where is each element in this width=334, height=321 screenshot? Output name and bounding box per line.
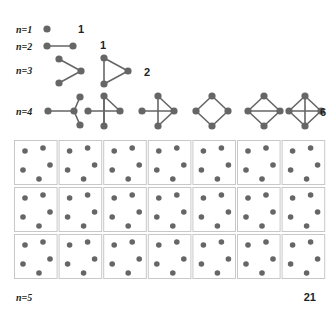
grid-cell-node [315,209,321,215]
grid-cell [148,235,191,279]
graph-node [100,54,107,61]
grid-cell-node [47,256,53,262]
grid-cell-node [22,195,28,201]
grid-cell-node [136,256,142,262]
row-label-n2: n=2 [16,41,32,52]
graph-node [69,42,76,49]
graph-node [301,92,308,99]
grid-cell-node [308,192,314,198]
grid-cell-node [308,239,314,245]
grid-cell-node [85,239,91,245]
grid-cell-node [81,176,87,182]
grid-cell-node [20,167,26,173]
grid-cell-node [22,242,28,248]
n5-grid-layer [15,141,325,279]
grid-cell-node [111,242,117,248]
grid-cell-node [170,270,176,276]
graph-node [100,80,107,87]
grid-cell-node [243,167,249,173]
grid-cell [282,235,325,279]
grid-cell-node [85,145,91,151]
grid-cell-node [219,192,225,198]
grid-cell-node [81,270,87,276]
grid-cell-node [263,239,269,245]
count-label-n2: 1 [100,39,106,51]
grid-cell [59,235,102,279]
grid-cell-node [154,167,160,173]
graph-node [154,122,161,129]
grid-cell-node [245,195,251,201]
graph-node [43,42,50,49]
grid-cell-node [215,223,221,229]
grid-cell-node [20,214,26,220]
graph-node [100,92,107,99]
grid-cell-node [129,192,135,198]
grid-cell-node [288,261,294,267]
grid-cell-node [304,223,310,229]
grid-cell-node [290,242,296,248]
grid-cell-node [40,145,46,151]
grid-cell-node [22,148,28,154]
graph-node [301,122,308,129]
grid-cell [104,188,147,232]
grid-cell [282,141,325,185]
grid-cell-node [201,195,207,201]
grid-cell-node [245,148,251,154]
grid-cell-node [181,209,187,215]
grid-cell-node [111,195,117,201]
grid-cell-node [270,209,276,215]
grid-cell-node [199,261,205,267]
grid-cell-node [36,176,42,182]
row-label-n1: n=1 [16,24,32,35]
grid-cell-node [36,270,42,276]
grid-cell-node [156,195,162,201]
grid-cell-node [40,239,46,245]
row-label-n5: n=5 [16,292,32,303]
grid-cell-node [263,145,269,151]
grid-cell-node [288,214,294,220]
grid-cell-node [304,176,310,182]
grid-cell-node [67,242,73,248]
graph-node [124,67,131,74]
row-label-n3: n=3 [16,65,32,76]
graph-node [55,79,62,86]
graph-node [44,107,51,114]
graph-node [77,67,84,74]
grid-cell [193,188,236,232]
grid-cell-node [174,145,180,151]
grid-cell-node [201,148,207,154]
grid-cell-node [125,223,131,229]
grid-cell [148,188,191,232]
graph-node [285,107,292,114]
grid-cell [59,141,102,185]
grid-cell [59,188,102,232]
connected-graphs-figure: n=11n=21n=32n=46n=521 [0,0,334,321]
grid-cell-node [199,214,205,220]
grid-cell-node [201,242,207,248]
grid-cell-node [243,214,249,220]
grid-cell-node [40,192,46,198]
grid-cell [104,235,147,279]
grid-cell [282,188,325,232]
graph-node [276,107,283,114]
graph-node [208,92,215,99]
graph-node [154,92,161,99]
graph-node [192,107,199,114]
grid-cell-node [47,209,53,215]
grid-cell-node [109,167,115,173]
grid-cell-node [156,148,162,154]
grid-cell-node [259,270,265,276]
grid-cell-node [199,167,205,173]
grid-cell-node [129,239,135,245]
grid-cell-node [304,270,310,276]
row-label-n4: n=4 [16,106,32,117]
graph-node [55,55,62,62]
graph-node [116,107,123,114]
grid-cell-node [181,162,187,168]
grid-cell-node [290,195,296,201]
grid-cell-node [20,261,26,267]
grid-cell [238,141,281,185]
grid-cell-node [65,214,71,220]
count-label-n1: 1 [78,23,84,35]
grid-cell-node [315,162,321,168]
